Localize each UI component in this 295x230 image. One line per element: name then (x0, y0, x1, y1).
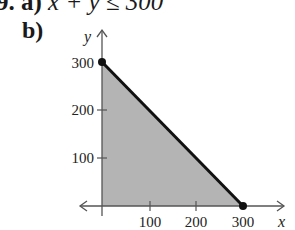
y-tick-100: 100 (72, 150, 95, 166)
vertex-300-0 (239, 202, 247, 210)
x-tick-300: 300 (232, 214, 255, 230)
x-axis-label: x (277, 213, 285, 230)
y-tick-200: 200 (72, 102, 95, 118)
x-tick-100: 100 (139, 214, 162, 230)
y-tick-300: 300 (72, 55, 95, 71)
x-tick-200: 200 (185, 214, 208, 230)
vertex-0-300 (98, 58, 106, 66)
inequality-graph: 100 200 300 300 200 100 x y (0, 0, 295, 230)
y-axis-label: y (82, 28, 92, 46)
